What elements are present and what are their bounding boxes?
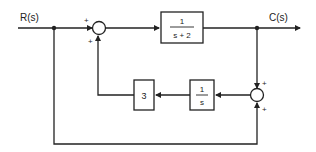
input-label: R(s) <box>20 12 39 23</box>
gain-block-value: 3 <box>141 91 146 101</box>
sum2-sign-bottom: + <box>262 105 267 114</box>
feedforward-loop-line <box>54 28 257 144</box>
sum2-sign-top: + <box>262 79 267 88</box>
gain-feedback-line <box>98 36 134 95</box>
integrator-block-numerator: 1 <box>200 85 205 94</box>
summing-junction-2 <box>251 89 264 102</box>
summing-junction-1 <box>93 22 106 35</box>
integrator-block-denominator: s <box>200 98 204 107</box>
forward-block-numerator: 1 <box>180 17 185 26</box>
block-diagram: R(s) + + 1 s + 2 C(s) + + 1 s 3 <box>0 0 316 152</box>
output-label: C(s) <box>269 12 288 23</box>
sum1-sign-top: + <box>84 16 89 25</box>
sum1-sign-bottom: + <box>88 37 93 46</box>
forward-block-denominator: s + 2 <box>173 31 191 40</box>
